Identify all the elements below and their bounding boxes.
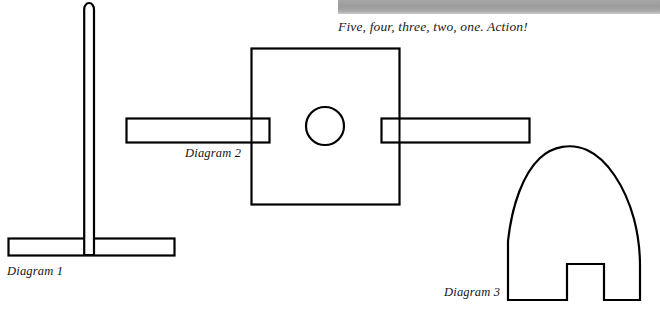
diagram-2-label: Diagram 2 [185,146,241,161]
diagram-page: Five, four, three, two, one. Action! [0,0,660,313]
diagram-2-left-arm-bar [127,119,270,143]
diagrams-canvas [0,0,660,313]
diagram-2-right-arm-bar [382,119,530,143]
diagram-3-label: Diagram 3 [444,285,500,300]
diagram-3-group [508,146,640,300]
diagram-3-arch-outline [508,146,640,300]
diagram-1-vertical-rod [84,3,94,255]
diagram-2-square-plate [252,49,400,205]
diagram-1-label: Diagram 1 [7,264,63,279]
diagram-2-group [127,49,530,205]
